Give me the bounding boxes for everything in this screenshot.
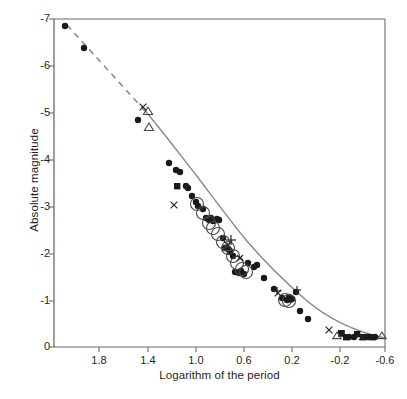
figure-caption-clipped	[8, 390, 398, 398]
x-tick-label: -0.6	[365, 355, 405, 366]
x-axis-tick-labels: 1.8 1.4 1.0 0.6 0.2 -0.2 -0.6	[0, 0, 407, 399]
x-tick-label: 1.8	[79, 355, 119, 366]
x-tick-label: 0.2	[272, 355, 312, 366]
period-luminosity-figure: -7 -6 -5 -4 -3 -2 -1 0 1.8 1.4 1.0 0.6 0…	[0, 0, 407, 399]
x-tick-label: 1.0	[176, 355, 216, 366]
x-tick-label: 0.6	[224, 355, 264, 366]
x-tick-label: -0.2	[320, 355, 360, 366]
y-axis-title: Absolute magnitude	[28, 80, 40, 280]
x-axis-title: Logarithm of the period	[54, 369, 385, 381]
x-tick-label: 1.4	[128, 355, 168, 366]
